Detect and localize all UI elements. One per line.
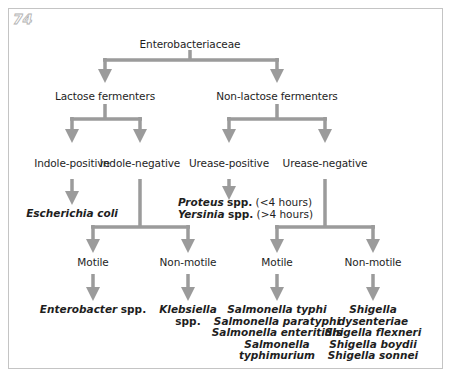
connector-lactose [70, 104, 142, 119]
node-urease-positive: Urease-positive [189, 157, 269, 169]
klebsiella-genus: Klebsiella [159, 304, 217, 316]
result-klebsiella: Klebsiella spp. [159, 304, 217, 327]
klebsiella-spp: spp. [159, 316, 217, 328]
shigella-line: Shigella flexneri [325, 327, 422, 339]
node-urease-negative: Urease-negative [283, 157, 368, 169]
salmonella-line: Salmonella typhi [212, 304, 342, 316]
node-nonmotile-nonlactose: Non-motile [345, 256, 402, 268]
connector-nonlactose [227, 104, 327, 119]
result-shigella-list: Shigella dysenteriae Shigella flexneri S… [325, 304, 422, 362]
node-lactose-fermenters: Lactose fermenters [55, 90, 155, 102]
result-yersinia: Yersinia spp. (>4 hours) [178, 208, 313, 220]
node-enterobacteriaceae: Enterobacteriaceae [140, 38, 241, 50]
node-indole-negative: Indole-negative [100, 157, 180, 169]
shigella-line: Shigella [325, 304, 422, 316]
result-enterobacter: Enterobacter spp. [40, 304, 146, 316]
proteus-genus: Proteus [178, 196, 224, 208]
salmonella-line: Salmonella enteritidis [212, 327, 342, 339]
proteus-note: (<4 hours) [256, 196, 313, 208]
salmonella-line: typhimurium [212, 350, 342, 362]
proteus-spp: spp. [227, 196, 252, 208]
connector-indole-neg [91, 179, 190, 227]
result-salmonella-list: Salmonella typhi Salmonella paratyphi Sa… [212, 304, 342, 362]
yersinia-genus: Yersinia [178, 208, 225, 220]
yersinia-spp: spp. [228, 208, 253, 220]
yersinia-note: (>4 hours) [257, 208, 314, 220]
result-escherichia-coli: Escherichia coli [26, 208, 118, 220]
connector-root [103, 50, 279, 60]
result-proteus: Proteus spp. (<4 hours) [178, 196, 312, 208]
node-indole-positive: Indole-positive [34, 157, 110, 169]
enterobacter-genus: Enterobacter [40, 303, 117, 315]
node-nonmotile-lactose: Non-motile [160, 256, 217, 268]
node-motile-nonlactose: Motile [261, 256, 292, 268]
shigella-line: Shigella sonnei [325, 350, 422, 362]
enterobacter-spp: spp. [121, 303, 146, 315]
node-non-lactose-fermenters: Non-lactose fermenters [216, 90, 337, 102]
node-motile-lactose: Motile [77, 256, 108, 268]
